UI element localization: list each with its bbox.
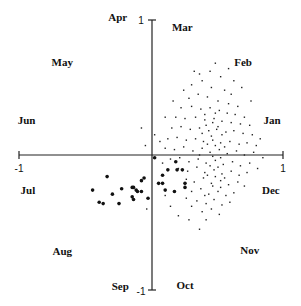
- small-data-point: [201, 80, 202, 81]
- small-data-point: [244, 154, 245, 155]
- small-data-point: [199, 73, 200, 74]
- small-data-point: [191, 191, 192, 192]
- large-data-point: [161, 182, 165, 186]
- small-data-point: [233, 130, 234, 131]
- small-data-point: [229, 141, 230, 142]
- small-data-point: [227, 153, 228, 154]
- small-data-point: [212, 156, 213, 157]
- small-data-point: [205, 125, 206, 126]
- small-data-point: [204, 114, 205, 115]
- large-data-point: [157, 182, 161, 186]
- small-data-point: [231, 122, 232, 123]
- small-data-point: [200, 108, 201, 109]
- small-data-point: [191, 106, 192, 107]
- small-data-point: [194, 71, 195, 72]
- large-data-point: [132, 186, 136, 190]
- small-data-point: [186, 198, 187, 199]
- small-data-point: [237, 181, 238, 182]
- small-data-point: [252, 134, 253, 135]
- small-data-point: [211, 183, 212, 184]
- small-data-point: [233, 192, 234, 193]
- small-data-point: [233, 80, 234, 81]
- small-data-point: [205, 203, 206, 204]
- small-data-point: [167, 138, 168, 139]
- month-label-jul: Jul: [21, 184, 36, 196]
- small-data-point: [250, 100, 251, 101]
- small-data-point: [179, 157, 180, 158]
- small-data-point: [184, 118, 185, 119]
- small-data-point: [183, 90, 184, 91]
- month-label-jan: Jan: [264, 114, 281, 126]
- small-data-point: [208, 193, 209, 194]
- large-data-point: [174, 160, 178, 164]
- small-data-point: [205, 162, 206, 163]
- large-data-point: [140, 190, 144, 194]
- small-data-point: [215, 176, 216, 177]
- small-data-point: [207, 96, 208, 97]
- small-data-point: [203, 177, 204, 178]
- small-data-point: [208, 130, 209, 131]
- small-data-point: [188, 98, 189, 99]
- small-data-point: [201, 133, 202, 134]
- large-data-point: [181, 168, 185, 172]
- large-data-point: [101, 202, 105, 206]
- small-data-point: [240, 123, 241, 124]
- small-data-point: [199, 127, 200, 128]
- small-data-point: [242, 133, 243, 134]
- small-data-point: [200, 188, 201, 189]
- small-data-point: [262, 157, 263, 158]
- large-data-point: [91, 188, 95, 192]
- small-data-point: [198, 94, 199, 95]
- small-data-point: [217, 191, 218, 192]
- small-data-point: [213, 169, 214, 170]
- small-data-point: [141, 127, 142, 128]
- small-data-point: [220, 180, 221, 181]
- small-data-point: [219, 214, 220, 215]
- small-data-point: [198, 158, 199, 159]
- small-data-point: [213, 118, 214, 119]
- small-data-point: [170, 206, 171, 207]
- small-data-point: [224, 90, 225, 91]
- month-label-feb: Feb: [234, 56, 252, 68]
- small-data-point: [172, 100, 173, 101]
- large-data-point: [166, 168, 170, 172]
- small-data-point: [227, 112, 228, 113]
- small-data-point: [204, 119, 205, 120]
- small-data-point: [221, 204, 222, 205]
- small-data-point: [240, 165, 241, 166]
- small-data-point: [223, 164, 224, 165]
- small-data-point: [171, 127, 172, 128]
- small-data-point: [178, 215, 179, 216]
- small-data-point: [180, 107, 181, 108]
- small-data-point: [219, 149, 220, 150]
- small-data-point: [244, 117, 245, 118]
- small-data-point: [228, 184, 229, 185]
- small-data-point: [221, 173, 222, 174]
- small-data-point: [234, 114, 235, 115]
- month-label-jun: Jun: [18, 114, 36, 126]
- small-data-point: [154, 134, 155, 135]
- small-data-point: [228, 68, 229, 69]
- small-data-point: [159, 141, 160, 142]
- large-data-point: [161, 173, 165, 177]
- small-data-point: [165, 117, 166, 118]
- small-data-point: [238, 144, 239, 145]
- large-data-point: [117, 202, 121, 206]
- large-data-point: [120, 187, 124, 191]
- small-data-point: [220, 76, 221, 77]
- small-data-point: [217, 126, 218, 127]
- large-data-point: [183, 186, 187, 190]
- small-data-point: [201, 148, 202, 149]
- small-data-point: [199, 229, 200, 230]
- y-max-tick-label: 1: [138, 15, 144, 26]
- month-label-nov: Nov: [240, 244, 259, 256]
- small-data-point: [212, 122, 213, 123]
- small-data-point: [211, 87, 212, 88]
- large-data-point: [163, 188, 167, 192]
- month-label-aug: Aug: [52, 245, 72, 257]
- small-data-point: [195, 117, 196, 118]
- small-data-point: [145, 145, 146, 146]
- small-data-point: [183, 146, 184, 147]
- small-data-point: [224, 177, 225, 178]
- small-data-point: [201, 211, 202, 212]
